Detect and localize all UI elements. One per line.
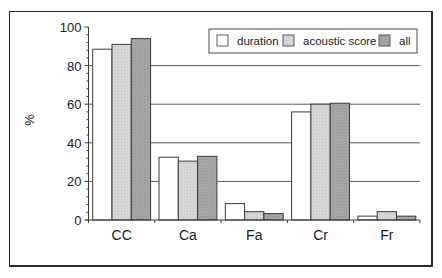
bar-ca-acoustic-score (178, 161, 197, 220)
x-tick-label: CC (112, 227, 132, 243)
bar-fr-all (397, 216, 416, 220)
legend-label: duration (237, 35, 279, 47)
y-tick-label: 60 (67, 97, 81, 112)
bar-cc-acoustic-score (112, 44, 131, 220)
bar-ca-duration (159, 157, 178, 220)
legend-swatch-acoustic-score (283, 35, 294, 46)
bar-chart: 020406080100CCCaFaCrFr % durationacousti… (0, 0, 442, 278)
legend-swatch-duration (217, 35, 228, 46)
x-tick-label: Fa (246, 227, 263, 243)
bar-cr-all (330, 103, 349, 220)
bar-cr-acoustic-score (311, 104, 330, 220)
bar-ca-all (198, 156, 217, 220)
x-tick-label: Fr (380, 227, 394, 243)
bar-cc-duration (93, 49, 112, 220)
bar-fr-acoustic-score (377, 212, 396, 220)
bar-cr-duration (292, 112, 311, 220)
x-tick-label: Ca (179, 227, 197, 243)
bar-cc-all (131, 39, 150, 220)
bar-fa-all (264, 214, 283, 220)
y-tick-label: 20 (67, 174, 81, 189)
x-tick-label: Cr (313, 227, 328, 243)
legend-swatch-all (379, 35, 390, 46)
legend-label: all (399, 35, 411, 47)
y-tick-label: 0 (74, 213, 81, 228)
legend: durationacoustic scoreall (209, 29, 417, 53)
y-tick-label: 100 (60, 20, 82, 35)
bar-fa-acoustic-score (245, 212, 264, 220)
bar-fa-duration (225, 204, 244, 220)
y-axis-label: % (22, 114, 37, 126)
y-tick-label: 80 (67, 59, 81, 74)
y-tick-label: 40 (67, 136, 81, 151)
bar-fr-duration (358, 216, 377, 220)
legend-label: acoustic score (303, 35, 377, 47)
